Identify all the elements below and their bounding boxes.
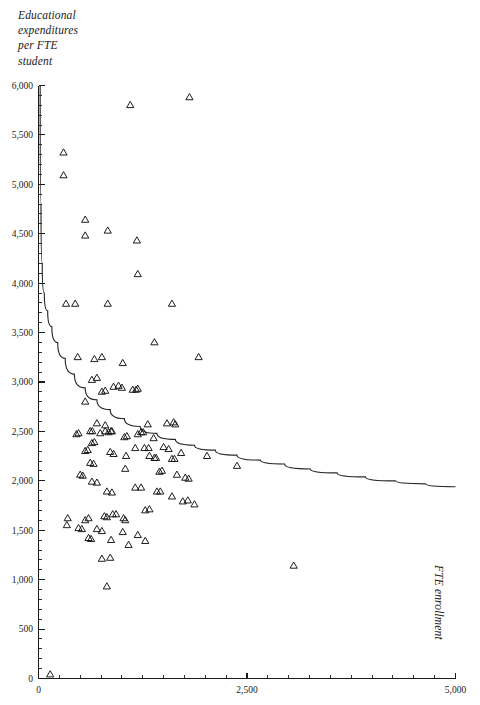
- y-tick-label: 5,000: [12, 180, 34, 190]
- data-point-marker: [104, 300, 111, 306]
- y-tick-label: 500: [19, 624, 34, 634]
- data-point-marker: [82, 216, 89, 222]
- data-point-marker: [104, 227, 111, 233]
- data-point-marker: [47, 671, 54, 677]
- data-point-marker: [103, 583, 110, 589]
- data-point-marker: [168, 300, 175, 306]
- data-point-marker: [125, 541, 132, 547]
- plot-area: 05001,0001,5002,0002,5003,0003,5004,0004…: [0, 0, 480, 705]
- y-tick-label: 5,500: [12, 130, 34, 140]
- y-tick-label: 3,000: [12, 377, 34, 387]
- y-tick-labels-group: 05001,0001,5002,0002,5003,0003,5004,0004…: [12, 81, 34, 684]
- data-point-marker: [233, 462, 240, 468]
- y-tick-label: 0: [28, 674, 33, 684]
- data-point-marker: [132, 444, 139, 450]
- data-point-marker: [127, 101, 134, 107]
- data-point-marker: [62, 300, 69, 306]
- data-point-marker: [160, 443, 167, 449]
- data-point-marker: [60, 172, 67, 178]
- major-ticks-group: [39, 86, 456, 679]
- data-point-marker: [173, 471, 180, 477]
- y-tick-label: 2,500: [12, 427, 34, 437]
- data-point-marker: [134, 270, 141, 276]
- data-point-marker: [60, 149, 67, 155]
- data-point-marker: [203, 452, 210, 458]
- data-point-marker: [119, 528, 126, 534]
- data-point-marker: [178, 449, 185, 455]
- data-point-marker: [195, 353, 202, 359]
- scatter-chart: Educational expenditures per FTE student…: [0, 0, 480, 705]
- data-point-marker: [186, 94, 193, 100]
- x-tick-labels-group: 02,5005,000: [36, 685, 466, 695]
- y-tick-label: 1,500: [12, 526, 34, 536]
- data-point-marker: [93, 525, 100, 531]
- axis-lines-group: [39, 86, 456, 679]
- y-tick-label: 6,000: [12, 81, 34, 91]
- minor-ticks-group: [39, 86, 456, 679]
- data-point-marker: [119, 359, 126, 365]
- data-point-marker: [290, 562, 297, 568]
- x-tick-label: 0: [36, 685, 41, 695]
- y-tick-label: 4,000: [12, 279, 34, 289]
- y-tick-label: 1,000: [12, 575, 34, 585]
- data-point-marker: [144, 421, 151, 427]
- data-point-marker: [107, 554, 114, 560]
- data-point-marker: [168, 493, 175, 499]
- data-point-marker: [122, 452, 129, 458]
- y-tick-label: 4,500: [12, 229, 34, 239]
- data-point-marker: [184, 497, 191, 503]
- data-point-marker: [93, 374, 100, 380]
- data-point-marker: [82, 398, 89, 404]
- data-point-marker: [122, 517, 129, 523]
- data-point-marker: [74, 353, 81, 359]
- data-point-marker: [64, 515, 71, 521]
- data-point-marker: [151, 339, 158, 345]
- data-point-marker: [191, 501, 198, 507]
- data-point-marker: [122, 465, 129, 471]
- y-tick-label: 2,000: [12, 476, 34, 486]
- data-point-marker: [82, 232, 89, 238]
- x-tick-label: 2,500: [236, 685, 258, 695]
- data-point-marker: [146, 452, 153, 458]
- data-point-marker: [93, 420, 100, 426]
- data-points-group: [47, 94, 298, 677]
- data-point-marker: [137, 484, 144, 490]
- data-point-marker: [150, 434, 157, 440]
- data-point-marker: [98, 353, 105, 359]
- data-point-marker: [107, 536, 114, 542]
- data-point-marker: [63, 521, 70, 527]
- data-point-marker: [142, 537, 149, 543]
- y-tick-label: 3,500: [12, 328, 34, 338]
- data-point-marker: [172, 421, 179, 427]
- data-point-marker: [133, 237, 140, 243]
- data-point-marker: [91, 355, 98, 361]
- data-point-marker: [98, 555, 105, 561]
- data-point-marker: [134, 531, 141, 537]
- data-point-marker: [72, 300, 79, 306]
- x-tick-label: 5,000: [445, 685, 467, 695]
